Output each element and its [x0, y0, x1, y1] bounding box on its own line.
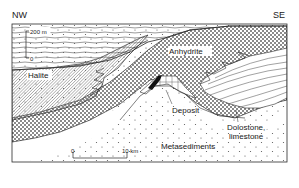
vertical-scale-top-label: 200 m [30, 29, 47, 35]
dolostone-label-line1: Dolostone, [227, 123, 265, 132]
cross-section-diagram: 200 m 0 0 10 km NW SE Halite Anhydrite D… [0, 0, 299, 188]
anhydrite-label: Anhydrite [169, 47, 203, 56]
dolostone-label-line2: limestone [229, 132, 264, 141]
metasediments-label: Metasediments [161, 142, 215, 151]
deposit-label: Deposit [172, 106, 200, 115]
horizontal-scale-end-label: 10 km [122, 148, 138, 154]
direction-label-se: SE [273, 10, 285, 20]
direction-label-nw: NW [12, 10, 27, 20]
halite-label: Halite [28, 71, 49, 80]
